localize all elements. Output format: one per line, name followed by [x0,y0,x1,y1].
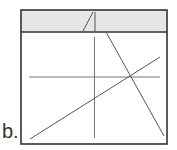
steep-diagonal-line [106,32,164,136]
diagram-canvas [0,0,177,150]
header-band [21,10,167,32]
figure-label: b. [2,121,19,141]
